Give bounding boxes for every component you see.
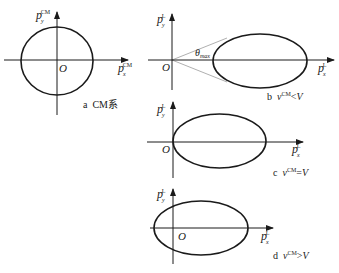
x-axis-label: pxL — [291, 142, 301, 158]
momentum-ellipse — [173, 114, 266, 168]
panel-d: O pyL pxL dvCM>V — [150, 187, 310, 264]
momentum-diagram: O pyCM pxCM aCM系 O θmax pyL pxL bvCM<V O… — [0, 0, 339, 273]
y-axis-label: pyL — [156, 12, 166, 28]
panel-b: O θmax pyL pxL bvCM<V — [148, 12, 334, 102]
origin-label: O — [162, 143, 170, 155]
x-axis-label: pxCM — [117, 61, 133, 77]
x-axis-label: pxL — [260, 229, 270, 245]
angle-label: θmax — [195, 47, 210, 59]
y-axis-label: pyL — [156, 187, 166, 203]
origin-label: O — [59, 62, 67, 74]
caption-c: cvCM=V — [273, 167, 310, 178]
origin-label: O — [162, 61, 170, 73]
y-axis-label: pyCM — [35, 8, 51, 24]
caption-d: dvCM>V — [273, 250, 310, 261]
panel-a: O pyCM pxCM aCM系 — [4, 8, 133, 115]
momentum-ellipse — [213, 34, 307, 88]
caption-a: aCM系 — [83, 99, 118, 110]
caption-b: bvCM<V — [267, 91, 304, 102]
x-axis-label: pxL — [317, 61, 327, 77]
y-axis-label: pyL — [156, 102, 166, 118]
tangent-line-lower — [172, 60, 227, 82]
origin-label: O — [178, 230, 186, 242]
panel-c: O pyL pxL cvCM=V — [147, 102, 310, 178]
